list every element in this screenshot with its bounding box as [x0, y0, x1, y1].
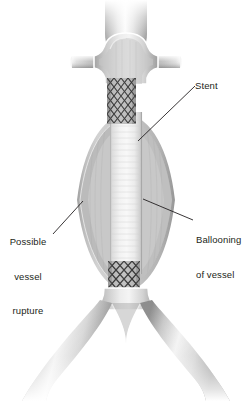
label-ballooning-line-1: Ballooning	[196, 234, 241, 246]
iliac-artery-right	[140, 300, 230, 401]
label-rupture-line-1: Possible	[2, 236, 54, 248]
label-stent: Stent	[195, 80, 218, 92]
label-rupture-line-3: rupture	[2, 305, 54, 317]
figure-canvas: Stent Ballooning of vessel Possible vess…	[0, 0, 252, 401]
label-ballooning: Ballooning of vessel	[196, 211, 241, 303]
bifurcation-crotch-shading	[112, 303, 140, 348]
stent-graft-tube	[110, 112, 142, 274]
label-ballooning-line-2: of vessel	[196, 269, 241, 281]
label-possible-vessel-rupture: Possible vessel rupture	[2, 213, 54, 340]
label-rupture-line-2: vessel	[2, 271, 54, 283]
aortic-stent-graft-illustration	[0, 0, 252, 401]
leader-line-stent	[138, 86, 195, 141]
